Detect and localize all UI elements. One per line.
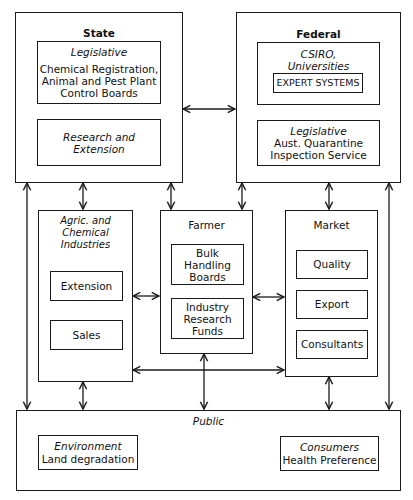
state-box: State Legislative Chemical Registration,… xyxy=(15,12,183,183)
state-legislative-box: Legislative Chemical Registration, Anima… xyxy=(37,41,161,104)
expert-systems-box: EXPERT SYSTEMS xyxy=(273,73,363,93)
market-export-box: Export xyxy=(296,290,368,319)
agric-title: Agric. and Chemical Industries xyxy=(39,215,132,251)
market-consultants-label: Consultants xyxy=(297,338,367,350)
consumers-box: Consumers Health Preference xyxy=(280,436,379,471)
market-consultants-box: Consultants xyxy=(296,330,368,359)
public-box: Public Environment Land degradation Cons… xyxy=(16,410,401,491)
industry-research-box: Industry Research Funds xyxy=(171,298,244,339)
market-title: Market xyxy=(286,219,377,231)
consumers-heading: Consumers xyxy=(281,441,378,453)
market-quality-box: Quality xyxy=(296,250,368,279)
federal-csiro-box: CSIRO, Universities EXPERT SYSTEMS xyxy=(257,42,380,105)
federal-title: Federal xyxy=(237,28,400,40)
state-research-label: Research and Extension xyxy=(38,131,160,155)
market-quality-label: Quality xyxy=(297,258,367,270)
federal-box: Federal CSIRO, Universities EXPERT SYSTE… xyxy=(236,12,401,183)
agric-extension-box: Extension xyxy=(50,271,123,301)
state-legislative-body: Chemical Registration, Animal and Pest P… xyxy=(38,63,160,99)
agric-box: Agric. and Chemical Industries Extension… xyxy=(38,210,133,382)
environment-heading: Environment xyxy=(39,440,137,452)
market-export-label: Export xyxy=(297,298,367,310)
bulk-handling-label: Bulk Handling Boards xyxy=(172,247,243,283)
bulk-handling-box: Bulk Handling Boards xyxy=(171,244,244,285)
agric-sales-label: Sales xyxy=(51,329,122,341)
state-legislative-heading: Legislative xyxy=(38,46,160,58)
state-research-box: Research and Extension xyxy=(37,119,161,166)
market-box: Market Quality Export Consultants xyxy=(285,210,378,377)
agric-extension-label: Extension xyxy=(51,280,122,292)
federal-legislative-box: Legislative Aust. Quarantine Inspection … xyxy=(257,120,380,166)
environment-box: Environment Land degradation xyxy=(38,435,138,470)
public-title: Public xyxy=(17,415,400,427)
state-title: State xyxy=(16,27,182,39)
federal-legislative-body: Aust. Quarantine Inspection Service xyxy=(258,137,379,161)
consumers-body: Health Preference xyxy=(281,454,378,466)
federal-legislative-heading: Legislative xyxy=(258,125,379,137)
farmer-title: Farmer xyxy=(161,219,252,231)
environment-body: Land degradation xyxy=(39,453,137,465)
farmer-box: Farmer Bulk Handling Boards Industry Res… xyxy=(160,210,253,354)
industry-research-label: Industry Research Funds xyxy=(172,301,243,337)
agric-sales-box: Sales xyxy=(50,320,123,350)
federal-csiro-heading: CSIRO, Universities xyxy=(258,48,379,72)
expert-systems-label: EXPERT SYSTEMS xyxy=(274,77,362,89)
